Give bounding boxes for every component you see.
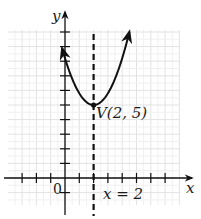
axis-of-symmetry-label: x = 2 bbox=[103, 185, 143, 203]
origin-label: 0 bbox=[53, 181, 62, 197]
x-axis-label: x bbox=[186, 179, 195, 197]
parabola-graph: y x 0 V(2, 5) x = 2 bbox=[0, 0, 201, 219]
y-axis-label: y bbox=[51, 7, 61, 25]
vertex-label: V(2, 5) bbox=[96, 104, 147, 122]
